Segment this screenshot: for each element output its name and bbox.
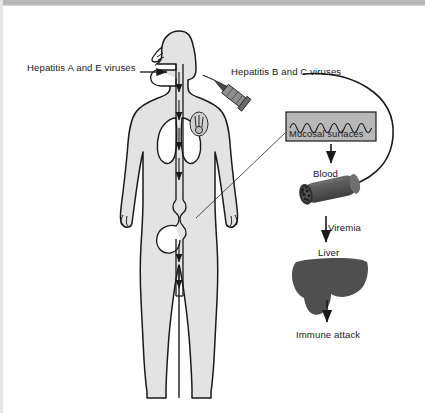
- label-hepatitis-a-e: Hepatitis A and E viruses: [27, 62, 136, 73]
- label-mucosal-surfaces: Mucosal surfaces: [289, 128, 364, 139]
- injection-site-icon: [190, 112, 208, 136]
- label-viremia: Viremia: [328, 222, 361, 233]
- liver-silhouette: [292, 258, 368, 315]
- label-liver: Liver: [318, 247, 339, 258]
- label-immune-attack: Immune attack: [296, 329, 360, 340]
- label-hepatitis-b-c: Hepatitis B and C viruses: [231, 66, 341, 77]
- diagram-canvas: Hepatitis A and E viruses Hepatitis B an…: [0, 0, 425, 413]
- label-blood: Blood: [313, 168, 338, 179]
